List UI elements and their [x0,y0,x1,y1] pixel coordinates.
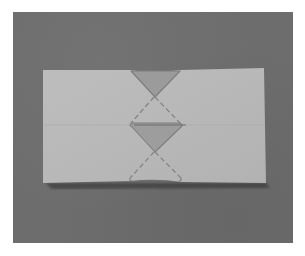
folded-paper-scene [0,0,305,256]
paper-shadow [46,183,270,189]
photo-frame: Photograph of a rectangular sheet of lig… [0,0,305,256]
